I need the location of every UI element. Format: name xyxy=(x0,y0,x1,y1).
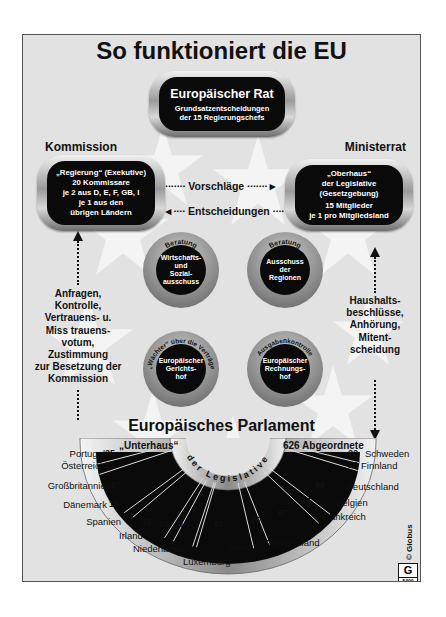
text-line: Kontrolle, xyxy=(23,300,133,312)
seat-count: 87 xyxy=(214,519,224,529)
kommission-line-3: je 2 aus D, E, F, GB, I xyxy=(47,188,155,198)
arrow-up-icon xyxy=(370,247,380,257)
seat-count: 15 xyxy=(142,517,152,527)
kommission-line-1: „Regierung“ (Exekutive) xyxy=(47,168,155,178)
seat-count: 25 xyxy=(105,448,115,458)
seat-count: 6 xyxy=(178,519,183,529)
text-line: Kommission xyxy=(23,373,133,385)
country-label: Belgien xyxy=(336,497,368,508)
text-line: Miss trauens- xyxy=(23,325,133,337)
kommission-line-2: 20 Kommissare xyxy=(47,178,155,188)
vorschlaege-arrow: ∙∙∙∙∙∙∙ Vorschläge ∙∙∙∙∙∙∙► xyxy=(165,180,278,192)
seat-count: 25 xyxy=(250,515,260,525)
country-label: Griechenland xyxy=(263,537,320,548)
seat-count: 25 xyxy=(301,496,311,506)
entscheidungen-label: Entscheidungen xyxy=(188,205,270,217)
ministerrat-line-5: je 1 pro Mitgliedsland xyxy=(295,211,403,221)
body-line: hof xyxy=(260,373,310,381)
parlament-ministerrat-relations: Haushalts- beschlüsse, Anhörung, Mitent-… xyxy=(323,295,421,356)
vorschlaege-label: Vorschläge xyxy=(188,180,244,192)
body-line: Wirtschafts- xyxy=(156,254,206,262)
globus-logo-code: 5499 xyxy=(399,577,417,582)
country-label: Finnland xyxy=(361,460,397,471)
europaeischer-rechnungshof: Ausgabenkontrolle Europäischer Rechnungs… xyxy=(247,331,323,407)
body-line: hof xyxy=(156,373,206,381)
kommission-heading: Kommission xyxy=(45,140,117,154)
dotted-line xyxy=(374,257,378,293)
body-line: ausschuss xyxy=(156,278,206,286)
ministerrat-box: „Oberhaus“ der Legislative (Gesetzgebung… xyxy=(285,159,413,231)
dotted-line: ∙∙∙∙∙∙∙ xyxy=(165,180,188,192)
seat-count: 87 xyxy=(111,480,121,490)
rat-name: Europäischer Rat xyxy=(159,87,285,101)
ministerrat-heading: Ministerrat xyxy=(345,140,406,154)
kommission-line-4: je 1 aus den xyxy=(47,198,155,208)
country-label: Schweden xyxy=(365,448,409,459)
body-line: der xyxy=(260,266,310,274)
arrow-left-icon: ◄ xyxy=(163,205,173,217)
country-label: Irland xyxy=(119,530,143,541)
arrow-right-icon: ► xyxy=(268,180,278,192)
body-line: Europäischer xyxy=(156,357,206,365)
ausschuss-der-regionen: Beratung Ausschuss der Regionen xyxy=(247,232,323,308)
arrow-up-icon xyxy=(73,231,83,241)
page-title: So funktioniert die EU xyxy=(23,37,420,65)
country-label: Portugal xyxy=(29,448,105,459)
seat-count: 31 xyxy=(159,519,169,529)
body-line: Europäischer xyxy=(260,357,310,365)
globus-logo-letter: G xyxy=(404,564,413,576)
globus-credit: © Globus xyxy=(405,524,414,560)
seat-count: 16 xyxy=(109,499,119,509)
europaeischer-gerichtshof: „Wächter“ über die Verträge Europäischer… xyxy=(143,331,219,407)
country-label: Deutschland xyxy=(346,481,399,492)
country-label: Dänemark xyxy=(29,499,107,510)
rat-desc-1: Grundsatzentscheidungen xyxy=(159,104,285,113)
body-line: Sozial- xyxy=(156,270,206,278)
text-line: Haushalts- xyxy=(323,295,421,307)
dotted-line xyxy=(77,390,81,420)
seat-count: 22 xyxy=(348,448,358,458)
rat-desc-2: der 15 Regierungschefs xyxy=(159,113,285,122)
infographic-frame: So funktioniert die EU Europäischer Rat … xyxy=(22,34,421,582)
dotted-line xyxy=(77,241,81,285)
seat-count: 16 xyxy=(348,460,358,470)
seat-count: 99 xyxy=(315,480,325,490)
wirtschafts-sozialausschuss: Beratung Wirtschafts- und Sozial- aussch… xyxy=(143,232,219,308)
body-line: Rechnungs- xyxy=(260,365,310,373)
dotted-line: ∙∙∙∙∙∙∙ xyxy=(244,180,267,192)
seat-count: 64 xyxy=(123,511,133,521)
kommission-box: „Regierung“ (Exekutive) 20 Kommissare je… xyxy=(37,155,165,231)
seat-count: 21 xyxy=(105,460,115,470)
text-line: Vertrauens- u. xyxy=(23,312,133,324)
text-line: zur Besetzung der xyxy=(23,361,133,373)
body-line: Ausschuss xyxy=(260,258,310,266)
ministerrat-line-3: (Gesetzgebung) xyxy=(295,189,403,199)
seat-count: 87 xyxy=(278,508,288,518)
text-line: beschlüsse, xyxy=(323,307,421,319)
unterhaus-label: „Unterhaus“ xyxy=(119,440,178,451)
text-line: votum, xyxy=(23,337,133,349)
ministerrat-line-1: „Oberhaus“ xyxy=(295,169,403,179)
entscheidungen-arrow: ◄∙∙∙∙ Entscheidungen ∙∙∙∙ xyxy=(163,205,284,217)
parlament-kommission-relations: Anfragen, Kontrolle, Vertrauens- u. Miss… xyxy=(23,288,133,386)
text-line: Zustimmung xyxy=(23,349,133,361)
ministerrat-line-4: 15 Mitglieder xyxy=(295,201,403,211)
country-label: Großbritannien xyxy=(29,480,111,491)
country-label: Spanien xyxy=(29,516,121,527)
body-line: Gerichts- xyxy=(156,365,206,373)
text-line: scheidung xyxy=(323,344,421,356)
europaeischer-rat-box: Europäischer Rat Grundsatzentscheidungen… xyxy=(149,71,295,137)
body-line: und xyxy=(156,262,206,270)
text-line: Anhörung, xyxy=(323,319,421,331)
kommission-line-5: übrigen Ländern xyxy=(47,208,155,218)
country-label: Niederlande xyxy=(133,543,184,554)
text-line: Anfragen, xyxy=(23,288,133,300)
dotted-line: ∙∙∙∙ xyxy=(270,205,285,217)
text-line: Mitent- xyxy=(323,332,421,344)
country-label: Österreich xyxy=(29,460,105,471)
ministerrat-line-2: der Legislative xyxy=(295,179,403,189)
country-label: Italien xyxy=(228,541,253,552)
country-label: Frankreich xyxy=(321,511,366,522)
body-line: Regionen xyxy=(260,274,310,282)
globus-logo: G 5499 xyxy=(398,563,418,582)
